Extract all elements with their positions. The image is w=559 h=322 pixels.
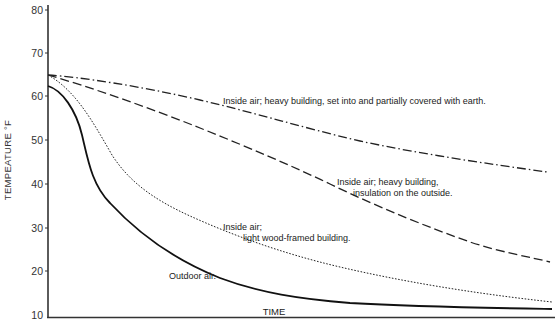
y-tick-40: 40 (31, 178, 43, 190)
y-tick-60: 60 (31, 90, 43, 102)
y-tick-50: 50 (31, 134, 43, 146)
y-tick-80: 80 (31, 4, 43, 16)
y-tick-labels: 80 70 60 50 40 30 20 10 (31, 4, 43, 321)
y-tick-30: 30 (31, 222, 43, 234)
annotation-outdoor: Outdoor air. (169, 271, 216, 281)
y-axis-label: TEMPEATURE °F (2, 120, 13, 200)
series-wood-framed (48, 75, 552, 302)
y-tick-70: 70 (31, 47, 43, 59)
series-earth-sheltered (48, 75, 547, 172)
annotation-insulated-line1: Inside air; heavy building, (337, 177, 439, 187)
annotation-wood-line2: light wood-framed building. (243, 233, 351, 243)
annotation-earth-sheltered: Inside air; heavy building, set into and… (223, 96, 486, 106)
annotation-wood-line1: Inside air; (223, 222, 262, 232)
y-tick-10: 10 (31, 309, 43, 321)
y-tick-20: 20 (31, 265, 43, 277)
temperature-chart: 80 70 60 50 40 30 20 10 TEMPEATURE °F TI… (0, 0, 559, 322)
annotation-insulated-line2: insulation on the outside. (353, 188, 453, 198)
series-outdoor-air (48, 86, 552, 309)
x-axis-label: TIME (263, 306, 286, 317)
